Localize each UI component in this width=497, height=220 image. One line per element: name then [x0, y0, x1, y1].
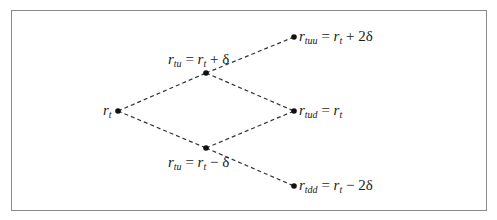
- tree-edges: [0, 0, 497, 220]
- edge-down-ud: [206, 111, 294, 148]
- label-up-sub: tu: [174, 58, 182, 69]
- label-uu-rhs-sub: t: [339, 35, 342, 46]
- label-uu-tail: + 2δ: [346, 28, 373, 44]
- label-down-tail: − δ: [210, 154, 229, 170]
- label-dd-rhs-sub: t: [339, 184, 342, 195]
- label-down: rtu = rt − δ: [168, 155, 229, 172]
- label-root: rt: [103, 103, 112, 120]
- label-up-tail: + δ: [210, 51, 229, 67]
- node-root: [115, 108, 121, 114]
- label-uu-eq: =: [321, 28, 329, 44]
- node-ud: [291, 108, 297, 114]
- label-dd-tail: − 2δ: [346, 177, 373, 193]
- label-ud: rtud = rt: [299, 103, 342, 120]
- label-dd-eq: =: [321, 177, 329, 193]
- node-uu: [291, 34, 297, 40]
- label-up: rtu = rt + δ: [168, 52, 229, 69]
- edge-root-up: [118, 73, 206, 111]
- label-down-sub: tu: [174, 161, 182, 172]
- node-dd: [291, 183, 297, 189]
- label-down-rhs-sub: t: [203, 161, 206, 172]
- label-ud-sub: tud: [305, 109, 318, 120]
- edge-root-down: [118, 111, 206, 148]
- label-uu-sub: tuu: [305, 35, 318, 46]
- label-dd-sub: tdd: [305, 184, 318, 195]
- node-up: [203, 70, 209, 76]
- label-dd: rtdd = rt − 2δ: [299, 178, 373, 195]
- label-ud-rhs-sub: t: [339, 109, 342, 120]
- label-root-sub: t: [109, 109, 112, 120]
- node-down: [203, 145, 209, 151]
- label-up-rhs-sub: t: [203, 58, 206, 69]
- edge-up-ud: [206, 73, 294, 111]
- label-up-eq: =: [185, 51, 193, 67]
- label-down-eq: =: [185, 154, 193, 170]
- label-ud-eq: =: [321, 102, 329, 118]
- label-uu: rtuu = rt + 2δ: [299, 29, 373, 46]
